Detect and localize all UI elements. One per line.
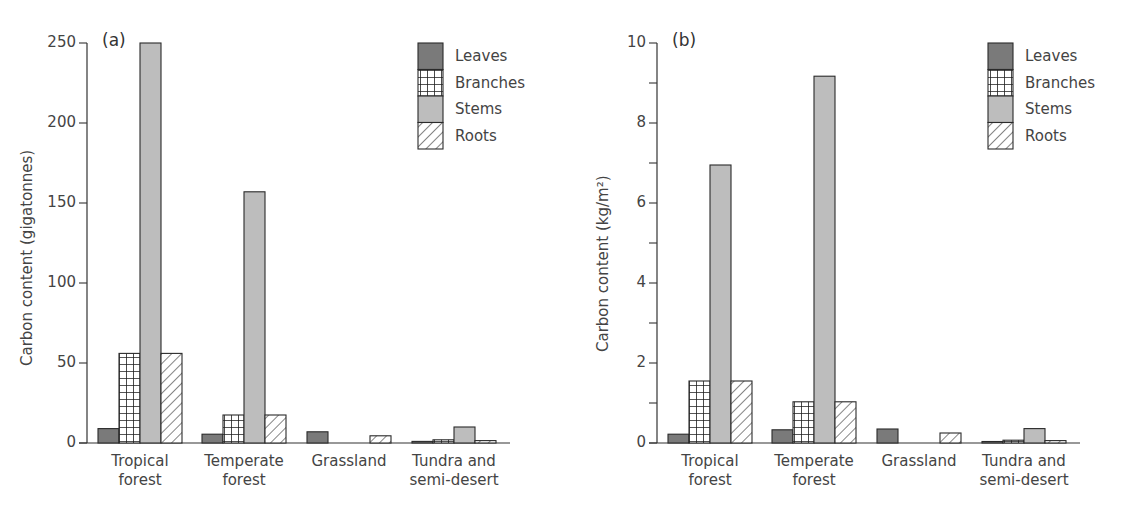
y-tick-label: 200	[36, 113, 76, 131]
legend-label-roots: Roots	[455, 127, 497, 145]
bar-stems	[244, 192, 265, 443]
bar-roots	[475, 441, 496, 443]
legend-label-stems: Stems	[1025, 100, 1072, 118]
y-tick-label: 100	[36, 273, 76, 291]
legend-swatch-roots	[988, 123, 1013, 150]
x-category-label: Temperateforest	[759, 452, 869, 490]
legend-label-branches: Branches	[1025, 74, 1095, 92]
legend-swatch-roots	[418, 123, 443, 150]
legend-swatch-stems	[988, 96, 1013, 123]
x-category-label: Tropicalforest	[85, 452, 195, 490]
x-category-label: Grassland	[294, 452, 404, 490]
bar-stems	[1024, 429, 1045, 443]
legend-swatch-leaves	[418, 43, 443, 70]
bar-stems	[454, 427, 475, 443]
x-category-label: Tundra andsemi-desert	[969, 452, 1079, 490]
bar-leaves	[772, 430, 793, 443]
bar-leaves	[98, 429, 119, 443]
x-category-label: Tropicalforest	[655, 452, 765, 490]
bar-roots	[265, 415, 286, 443]
bar-leaves	[412, 441, 433, 443]
panel-a-tag: (a)	[102, 30, 126, 50]
bar-leaves	[202, 434, 223, 443]
bar-stems	[140, 43, 161, 443]
y-tick-label: 0	[606, 433, 646, 451]
x-category-label: Temperateforest	[189, 452, 299, 490]
y-tick-label: 250	[36, 33, 76, 51]
legend-swatch-branches	[988, 70, 1013, 97]
y-tick-label: 8	[606, 113, 646, 131]
legend-swatch-stems	[418, 96, 443, 123]
bar-leaves	[877, 429, 898, 443]
x-category-label: Grassland	[864, 452, 974, 490]
bar-roots	[161, 353, 182, 443]
bar-roots	[370, 436, 391, 443]
legend-swatch-branches	[418, 70, 443, 97]
y-tick-label: 4	[606, 273, 646, 291]
x-category-label: Tundra andsemi-desert	[399, 452, 509, 490]
bar-roots	[835, 402, 856, 443]
bar-branches	[793, 402, 814, 443]
y-tick-label: 0	[36, 433, 76, 451]
legend-label-branches: Branches	[455, 74, 525, 92]
bar-stems	[710, 165, 731, 443]
bar-branches	[223, 415, 244, 443]
y-tick-label: 10	[606, 33, 646, 51]
legend-label-roots: Roots	[1025, 127, 1067, 145]
panel-b-tag: (b)	[672, 30, 696, 50]
bar-branches	[119, 353, 140, 443]
y-tick-label: 150	[36, 193, 76, 211]
bar-leaves	[307, 432, 328, 443]
bar-branches	[433, 440, 454, 443]
y-tick-label: 50	[36, 353, 76, 371]
y-tick-label: 2	[606, 353, 646, 371]
bar-stems	[814, 76, 835, 443]
bar-leaves	[982, 442, 1003, 444]
bar-roots	[940, 433, 961, 443]
legend-swatch-leaves	[988, 43, 1013, 70]
bar-branches	[1003, 440, 1024, 443]
y-tick-label: 6	[606, 193, 646, 211]
bar-branches	[689, 381, 710, 443]
bar-roots	[1045, 441, 1066, 443]
legend-label-stems: Stems	[455, 100, 502, 118]
bar-leaves	[668, 434, 689, 443]
panel-a-y-axis-label: Carbon content (gigatonnes)	[18, 150, 36, 366]
panel-b-kg-per-m2: (b) Carbon content (kg/m²) 0246810Tropic…	[570, 0, 1140, 522]
bar-roots	[731, 381, 752, 443]
legend-label-leaves: Leaves	[455, 47, 507, 65]
legend-label-leaves: Leaves	[1025, 47, 1077, 65]
panel-a-gigatonnes: (a) Carbon content (gigatonnes) 05010015…	[0, 0, 570, 522]
